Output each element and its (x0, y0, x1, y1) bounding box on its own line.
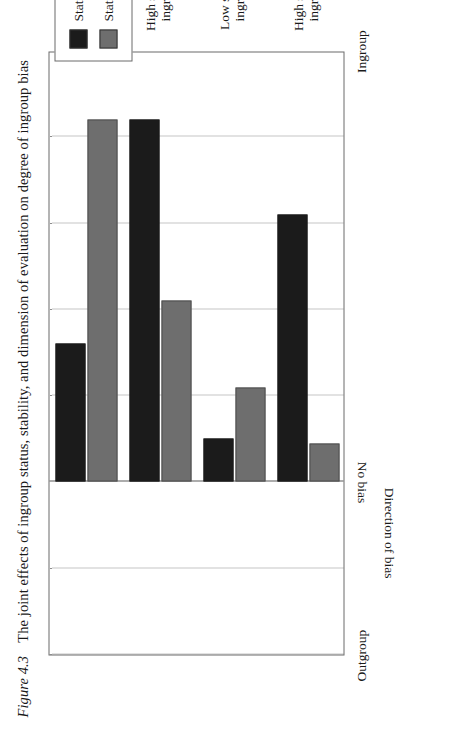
x-group-label: Low statusingroup (216, 0, 246, 43)
x-group-line2: ingroup (157, 0, 172, 21)
bar-status-irrelevant (161, 300, 191, 481)
bar-status-relevant (277, 214, 307, 481)
x-group-line2: ingroup (231, 0, 246, 21)
bar-status-relevant (55, 343, 85, 481)
legend-entry: Status-irrelevant (99, 0, 117, 48)
legend-label: Status-relevant (70, 0, 86, 21)
x-group-line1: High status (142, 0, 157, 31)
bar-status-irrelevant (309, 443, 339, 482)
y-axis-title: Direction of bias (380, 488, 396, 579)
figure-caption-text: The joint effects of ingroup status, sta… (14, 60, 30, 643)
x-group-line1: Low status (216, 0, 231, 29)
plot-area (48, 51, 344, 655)
y-tick-ingroup: Ingroup (353, 6, 369, 96)
bar-status-irrelevant (235, 387, 265, 482)
figure-canvas: Figure 4.3The joint effects of ingroup s… (0, 0, 453, 743)
bar-status-relevant (129, 119, 159, 481)
gridline (49, 567, 343, 568)
legend-swatch (69, 29, 87, 48)
gridline (49, 653, 343, 654)
x-group-label: High statusingroup (290, 0, 320, 43)
bar-status-relevant (203, 438, 233, 481)
x-group-label: High statusingroup (142, 0, 172, 43)
legend-label: Status-irrelevant (100, 0, 116, 21)
y-tick-outgroup: Outgroup (353, 610, 369, 700)
bar-status-irrelevant (87, 119, 117, 481)
legend-entry: Status-relevant (69, 0, 87, 48)
figure-caption: Figure 4.3The joint effects of ingroup s… (14, 60, 31, 717)
x-group-line2: ingroup (305, 0, 320, 21)
y-tick-no-bias: No bias (353, 437, 369, 527)
figure-number: Figure 4.3 (14, 655, 30, 717)
chart-legend: Status-relevantStatus-irrelevant (54, 0, 132, 61)
legend-swatch (99, 29, 117, 48)
x-group-line1: High status (290, 0, 305, 31)
